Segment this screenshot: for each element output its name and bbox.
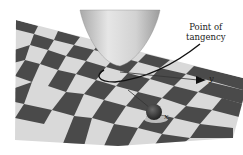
x-axis-sphere-icon (146, 104, 162, 120)
annotation-line-1: Point of (186, 22, 225, 32)
x-axis-label: x (164, 113, 169, 121)
annotation-line-2: tangency (186, 32, 225, 42)
tangency-diagram: Point of tangency y x (0, 0, 243, 155)
point-of-tangency-label: Point of tangency (186, 22, 225, 42)
y-axis-label: y (209, 75, 214, 83)
